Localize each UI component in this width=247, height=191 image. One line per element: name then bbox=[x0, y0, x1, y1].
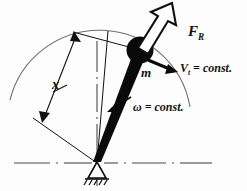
resultant-force-arrow bbox=[138, 3, 176, 54]
label-angular-velocity: ω = const. bbox=[133, 101, 184, 113]
trajectory-arc bbox=[10, 30, 190, 107]
figure-canvas: FR m Vt = const. ω = const. x bbox=[0, 0, 247, 191]
mechanics-diagram bbox=[0, 0, 247, 191]
dimension-line-x bbox=[44, 36, 76, 118]
label-resultant-force: FR bbox=[188, 24, 204, 42]
label-mass: m bbox=[141, 66, 151, 79]
label-velocity: Vt = const. bbox=[180, 62, 232, 77]
pin-support bbox=[84, 162, 109, 185]
dimension-arrowhead-bottom bbox=[39, 111, 50, 123]
label-dimension-x: x bbox=[52, 78, 59, 92]
